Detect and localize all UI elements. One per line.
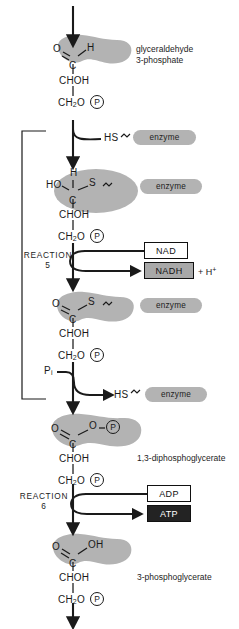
dpg-atom-c: C xyxy=(69,440,76,450)
compound-label-1-3-diphosphoglycerate: 1,3-diphosphoglycerate xyxy=(137,453,225,464)
gap-name-line2: 3-phosphate xyxy=(136,55,183,65)
enzyme-release-thiol: HS xyxy=(114,390,128,400)
reaction-6-word: REACTION xyxy=(20,491,68,501)
thioester-atom-c: C xyxy=(69,315,76,325)
squiggle-icon-1 xyxy=(121,134,130,137)
enzyme-binding-thiol: HS xyxy=(104,133,118,143)
dpg-chain-ch2o: CH2O xyxy=(58,476,85,488)
thioester-phosphate-icon: P xyxy=(90,348,104,362)
compound-label-3-phosphoglycerate: 3-phosphoglycerate xyxy=(137,572,212,583)
dpg-phosphate-1-icon: P xyxy=(106,420,120,434)
nad-box[interactable]: NAD xyxy=(144,242,188,259)
gap-ch-o: O xyxy=(77,97,85,108)
thioester-chain-ch2o: CH2O xyxy=(58,351,85,363)
thiohemiacetal-chain-choh: CHOH xyxy=(59,210,89,220)
reaction-5-label: REACTION 5 xyxy=(12,250,84,270)
thiohemiacetal-chain-ch2o: CH2O xyxy=(58,232,85,244)
enzyme-binding-curve xyxy=(73,129,101,139)
proton-label: + H+ xyxy=(198,266,216,277)
thio2-ch-o: O xyxy=(77,350,85,361)
pg3-ch: CH xyxy=(58,594,73,605)
pg3-phosphate-icon: P xyxy=(90,592,104,606)
pi-enzyme-exchange xyxy=(57,372,111,395)
diagram-vector-layer xyxy=(0,0,239,629)
pg3-chain-choh: CHOH xyxy=(59,573,89,583)
reaction-5-word: REACTION xyxy=(24,250,72,260)
atp-box[interactable]: ATP xyxy=(147,505,191,522)
pg3-atom-c: C xyxy=(69,559,76,569)
thioester-chain-choh: CHOH xyxy=(59,329,89,339)
dpg-atom-o-left: O xyxy=(51,424,59,434)
dpg-ch-o: O xyxy=(77,475,85,486)
enzyme-release-curve xyxy=(74,382,111,395)
thio1-ch-o: O xyxy=(77,231,85,242)
highlight-blob-thiohemiacetal xyxy=(54,169,138,213)
thiohemiacetal-atom-c: C xyxy=(69,196,76,206)
proton-charge: + xyxy=(212,266,216,273)
dpg-atom-o-right: O xyxy=(89,421,97,431)
enzyme-pill-bound-2: enzyme xyxy=(140,298,202,313)
gap-phosphate-icon: P xyxy=(90,95,104,109)
thioester-atom-s: S xyxy=(88,297,95,307)
inorganic-phosphate-label: Pi xyxy=(44,366,53,378)
gap-ch: CH xyxy=(58,97,73,108)
reaction-6-number: 6 xyxy=(41,501,46,511)
gap-chain-ch2o: CH2O xyxy=(58,98,85,110)
nadh-box[interactable]: NADH xyxy=(144,262,194,279)
squiggle-icon-4 xyxy=(131,390,140,393)
thiohemiacetal-atom-ho: HO xyxy=(46,180,61,190)
thiohemiacetal-atom-h: H xyxy=(70,168,77,178)
dpg-chain-choh: CHOH xyxy=(59,454,89,464)
pi-p: P xyxy=(44,365,51,376)
adp-atp-coupling xyxy=(71,494,147,514)
pg3-atom-o: O xyxy=(52,542,60,552)
chemical-bonds xyxy=(60,50,105,593)
gap-chain-choh: CHOH xyxy=(59,76,89,86)
gap-atom-o: O xyxy=(53,44,61,54)
reaction-6-label: REACTION 6 xyxy=(8,491,80,511)
pg3-chain-ch2o: CH2O xyxy=(58,595,85,607)
dpg-phosphate-2-icon: P xyxy=(90,473,104,487)
enzyme-pill-release: enzyme xyxy=(145,387,207,402)
thio2-ch: CH xyxy=(58,350,73,361)
dpg-ch: CH xyxy=(58,475,73,486)
enzyme-pill-binding: enzyme xyxy=(133,130,196,145)
thiohemiacetal-phosphate-icon: P xyxy=(90,229,104,243)
gap-atom-h: H xyxy=(87,43,94,53)
pg3-ch-o: O xyxy=(77,594,85,605)
gap-atom-c: C xyxy=(69,61,76,71)
adp-box[interactable]: ADP xyxy=(147,485,191,502)
thiohemiacetal-atom-s: S xyxy=(89,178,96,188)
pi-sub: i xyxy=(51,369,53,376)
pi-in-curve xyxy=(57,372,74,382)
enzyme-pill-bound-1: enzyme xyxy=(140,179,202,194)
glycolysis-diagram: REACTION 5 REACTION 6 O H C CHOH CH2O P … xyxy=(0,0,239,629)
reaction-5-number: 5 xyxy=(45,260,50,270)
adp-in-curve xyxy=(71,494,147,514)
pg3-atom-oh: OH xyxy=(88,540,103,550)
gap-name-line1: glyceraldehyde xyxy=(136,44,193,54)
thio1-ch: CH xyxy=(58,231,73,242)
compound-label-glyceraldehyde-3-phosphate: glyceraldehyde 3-phosphate xyxy=(136,44,232,65)
proton-text: + H xyxy=(198,267,212,277)
thioester-atom-o: O xyxy=(52,299,60,309)
